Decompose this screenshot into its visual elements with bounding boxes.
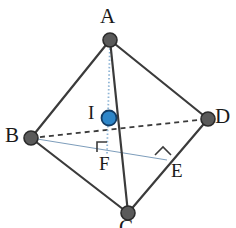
vertex-label-D: D xyxy=(215,106,230,127)
point-label-E: E xyxy=(171,161,183,180)
point-label-F: F xyxy=(99,154,110,173)
vertex-label-B: B xyxy=(5,125,19,146)
vertex-D-dot xyxy=(201,112,215,126)
vertex-A-dot xyxy=(103,33,117,47)
edge-DC xyxy=(128,119,208,213)
geometry-figure: A B C D I E F xyxy=(0,0,236,228)
edge-AB xyxy=(31,40,110,138)
vertex-label-C: C xyxy=(119,217,133,228)
edge-AD xyxy=(110,40,208,119)
incenter-I-dot xyxy=(102,111,117,126)
vertex-label-A: A xyxy=(100,6,115,27)
right-angle-E-icon xyxy=(155,147,171,155)
figure-canvas xyxy=(0,0,236,228)
point-label-I: I xyxy=(88,103,94,122)
vertex-B-dot xyxy=(24,131,38,145)
edge-BC xyxy=(31,138,128,213)
edge-AC xyxy=(110,40,128,213)
altitude-AF xyxy=(107,41,110,154)
